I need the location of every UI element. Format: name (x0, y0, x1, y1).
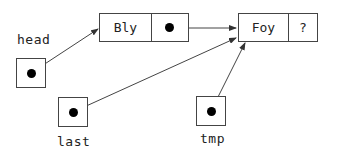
node-foy: Foy ? (238, 13, 318, 42)
node-bly-next (152, 14, 188, 41)
variable-tmp (196, 96, 226, 126)
node-foy-data: Foy (239, 14, 289, 41)
variable-last (58, 97, 88, 127)
node-bly: Bly (99, 13, 189, 42)
pointer-dot-icon (69, 108, 78, 117)
label-tmp: tmp (200, 131, 225, 146)
label-last: last (57, 134, 90, 149)
node-foy-next: ? (289, 14, 317, 41)
variable-head (16, 58, 46, 88)
label-head: head (17, 32, 50, 47)
pointer-dot-icon (207, 107, 216, 116)
pointer-dot-icon (165, 23, 174, 32)
pointer-dot-icon (27, 69, 36, 78)
node-bly-data: Bly (100, 14, 152, 41)
